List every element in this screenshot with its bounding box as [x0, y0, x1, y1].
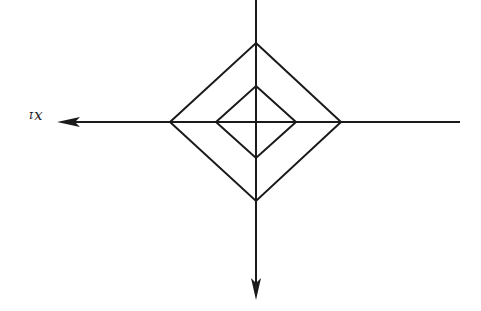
diagram-canvas: [0, 0, 481, 311]
axis-label-x1: x₁: [28, 108, 42, 126]
